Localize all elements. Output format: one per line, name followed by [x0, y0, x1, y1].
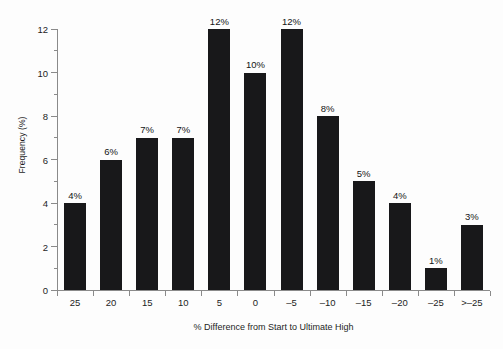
bar-value-label: 1%: [429, 256, 443, 266]
bar-value-label: 4%: [68, 191, 82, 201]
bar-value-label: 7%: [176, 125, 190, 135]
bar-group: 10%: [237, 29, 273, 290]
y-axis: 024681012: [0, 0, 58, 349]
x-axis-tick-mark: [165, 291, 166, 296]
bar-chart: Frequency (%) 024681012 4%6%7%7%12%10%12…: [0, 0, 503, 349]
x-axis-category-label: 0: [253, 298, 258, 308]
bar-group: 7%: [165, 29, 201, 290]
bar-value-label: 7%: [140, 125, 154, 135]
x-axis-tick-mark: [418, 291, 419, 296]
x-axis-category-label: 25: [70, 298, 81, 308]
bar-group: 4%: [57, 29, 93, 290]
bar-group: 7%: [129, 29, 165, 290]
bar-value-label: 8%: [321, 104, 335, 114]
x-axis-category-label: –15: [356, 298, 372, 308]
bar-value-label: 5%: [357, 169, 371, 179]
bar-value-label: 10%: [246, 60, 265, 70]
x-axis-tick-mark: [310, 291, 311, 296]
x-axis-category-label: 5: [217, 298, 222, 308]
bar-group: 1%: [418, 29, 454, 290]
bar: [281, 29, 303, 290]
bar: [317, 116, 339, 290]
x-axis-labels: 2520151050–5–10–15–20–25>–25: [57, 298, 490, 314]
x-axis-tick-mark: [346, 291, 347, 296]
x-axis-category-label: 10: [178, 298, 189, 308]
bar-group: 8%: [310, 29, 346, 290]
x-axis-category-label: 20: [106, 298, 117, 308]
bar-group: 6%: [93, 29, 129, 290]
bar-value-label: 4%: [393, 191, 407, 201]
y-axis-tick-label: 4: [43, 199, 48, 209]
x-axis-category-label: 15: [142, 298, 153, 308]
bar: [172, 138, 194, 290]
bar: [136, 138, 158, 290]
plot-area: 4%6%7%7%12%10%12%8%5%4%1%3%: [57, 29, 490, 290]
x-axis-tick-mark: [274, 291, 275, 296]
x-axis-tick-mark: [454, 291, 455, 296]
y-axis-tick-label: 8: [43, 112, 48, 122]
bar: [100, 160, 122, 291]
x-axis-category-label: –10: [320, 298, 336, 308]
bar-value-label: 12%: [282, 17, 301, 27]
x-axis-category-label: >–25: [461, 298, 482, 308]
x-axis-title: % Difference from Start to Ultimate High: [57, 322, 490, 332]
y-axis-tick-label: 0: [43, 286, 48, 296]
bar-group: 12%: [201, 29, 237, 290]
x-axis-category-label: –5: [286, 298, 297, 308]
bar-group: 5%: [346, 29, 382, 290]
bar-value-label: 3%: [465, 212, 479, 222]
bar-group: 12%: [274, 29, 310, 290]
bar: [244, 73, 266, 291]
bar-group: 4%: [382, 29, 418, 290]
x-axis-tick-mark: [93, 291, 94, 296]
y-axis-tick-label: 12: [37, 25, 48, 35]
bar: [208, 29, 230, 290]
y-axis-tick-label: 2: [43, 242, 48, 252]
x-axis-tick-mark: [57, 291, 58, 296]
bar-value-label: 12%: [210, 17, 229, 27]
y-axis-tick-label: 6: [43, 155, 48, 165]
x-axis-tick-mark: [237, 291, 238, 296]
bar: [461, 225, 483, 290]
bar: [64, 203, 86, 290]
bar: [353, 181, 375, 290]
bar-group: 3%: [454, 29, 490, 290]
bar: [425, 268, 447, 290]
x-axis-tick-mark: [382, 291, 383, 296]
bar: [389, 203, 411, 290]
x-axis-ticks: [57, 291, 490, 297]
x-axis-tick-mark: [201, 291, 202, 296]
x-axis-category-label: –20: [392, 298, 408, 308]
bar-value-label: 6%: [104, 147, 118, 157]
x-axis-tick-mark: [490, 291, 491, 296]
x-axis-category-label: –25: [428, 298, 444, 308]
y-axis-tick-label: 10: [37, 68, 48, 78]
x-axis-tick-mark: [129, 291, 130, 296]
